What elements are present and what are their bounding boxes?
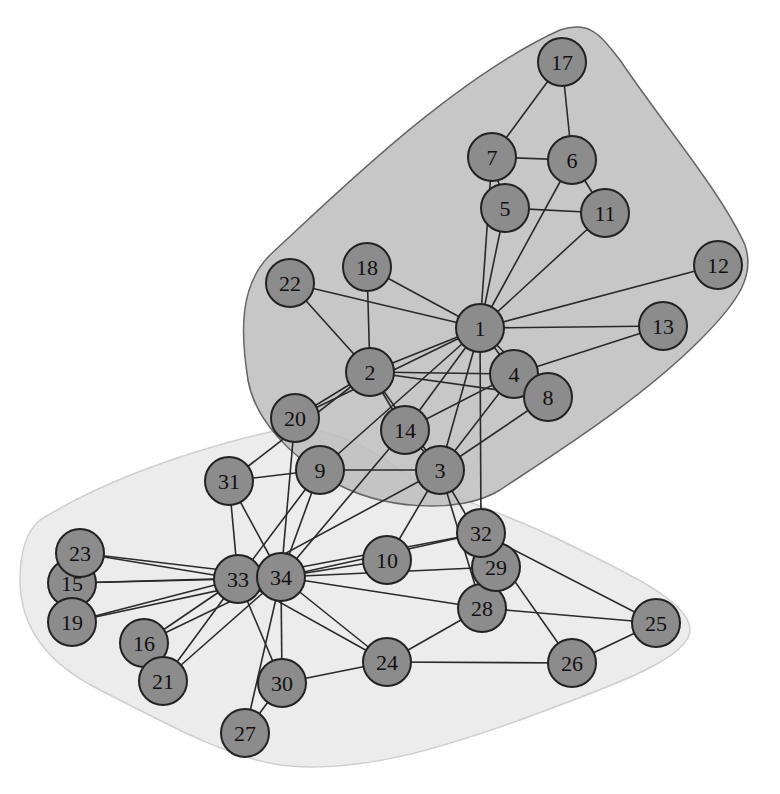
- node-3[interactable]: 3: [416, 446, 464, 494]
- node-label: 9: [315, 458, 326, 483]
- node-label: 14: [394, 418, 416, 443]
- node-label: 21: [152, 669, 174, 694]
- node-label: 3: [435, 458, 446, 483]
- node-24[interactable]: 24: [363, 638, 411, 686]
- node-label: 6: [567, 148, 578, 173]
- node-label: 29: [485, 555, 507, 580]
- node-2[interactable]: 2: [346, 348, 394, 396]
- network-graph: 1234567891011121314151617181920212223242…: [0, 0, 780, 794]
- node-label: 19: [61, 610, 83, 635]
- node-30[interactable]: 30: [258, 659, 306, 707]
- node-17[interactable]: 17: [538, 38, 586, 86]
- node-34[interactable]: 34: [257, 553, 305, 601]
- node-12[interactable]: 12: [694, 241, 742, 289]
- node-32[interactable]: 32: [457, 509, 505, 557]
- node-9[interactable]: 9: [296, 446, 344, 494]
- node-7[interactable]: 7: [468, 133, 516, 181]
- node-21[interactable]: 21: [139, 657, 187, 705]
- node-label: 33: [227, 567, 249, 592]
- node-label: 20: [284, 406, 306, 431]
- node-27[interactable]: 27: [221, 709, 269, 757]
- node-label: 4: [509, 362, 520, 387]
- node-label: 13: [652, 314, 674, 339]
- node-13[interactable]: 13: [639, 302, 687, 350]
- node-label: 18: [356, 255, 378, 280]
- node-label: 32: [470, 521, 492, 546]
- node-25[interactable]: 25: [632, 599, 680, 647]
- node-8[interactable]: 8: [524, 373, 572, 421]
- node-20[interactable]: 20: [271, 394, 319, 442]
- node-label: 17: [551, 50, 573, 75]
- node-23[interactable]: 23: [56, 529, 104, 577]
- node-6[interactable]: 6: [548, 136, 596, 184]
- node-label: 7: [487, 145, 498, 170]
- node-label: 16: [133, 631, 155, 656]
- node-label: 12: [707, 253, 729, 278]
- node-11[interactable]: 11: [581, 189, 629, 237]
- node-26[interactable]: 26: [548, 639, 596, 687]
- node-19[interactable]: 19: [48, 598, 96, 646]
- node-14[interactable]: 14: [381, 406, 429, 454]
- node-label: 1: [475, 316, 486, 341]
- node-label: 2: [365, 360, 376, 385]
- node-label: 26: [561, 651, 583, 676]
- node-label: 24: [376, 650, 398, 675]
- node-label: 5: [500, 196, 511, 221]
- edge-24-26: [387, 662, 572, 663]
- node-31[interactable]: 31: [205, 457, 253, 505]
- node-22[interactable]: 22: [266, 259, 314, 307]
- node-label: 8: [543, 385, 554, 410]
- node-label: 23: [69, 541, 91, 566]
- node-label: 34: [270, 565, 292, 590]
- node-label: 28: [471, 596, 493, 621]
- node-10[interactable]: 10: [363, 536, 411, 584]
- node-33[interactable]: 33: [214, 555, 262, 603]
- node-label: 30: [271, 671, 293, 696]
- edge-1-32: [480, 328, 481, 533]
- node-label: 27: [234, 721, 256, 746]
- node-label: 25: [645, 611, 667, 636]
- node-label: 31: [218, 469, 240, 494]
- node-label: 22: [279, 271, 301, 296]
- node-18[interactable]: 18: [343, 243, 391, 291]
- node-label: 10: [376, 548, 398, 573]
- community-a-hull: [243, 27, 748, 506]
- node-label: 11: [594, 201, 615, 226]
- community-a-region: [243, 27, 748, 506]
- node-1[interactable]: 1: [456, 304, 504, 352]
- node-5[interactable]: 5: [481, 184, 529, 232]
